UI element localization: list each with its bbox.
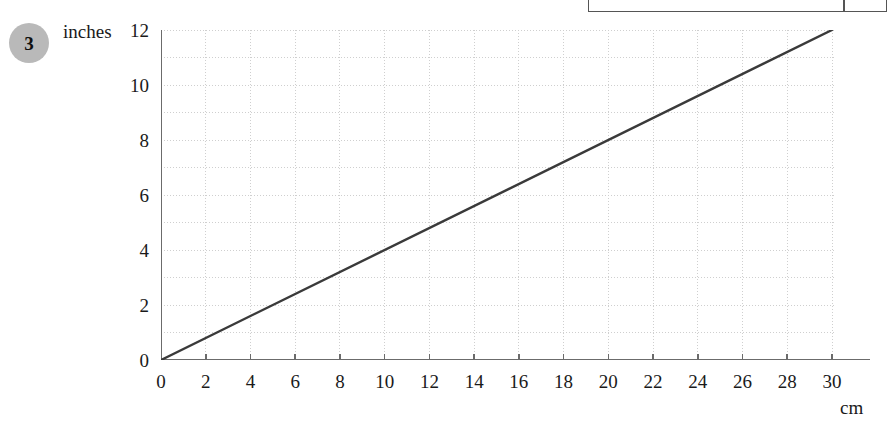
x-axis-tick-label: 28 <box>778 372 797 391</box>
x-axis-tick-label: 18 <box>554 372 573 391</box>
question-number-label: 3 <box>24 34 34 53</box>
x-axis-tick-label: 4 <box>246 372 256 391</box>
x-axis-title: cm <box>840 398 863 417</box>
y-axis-tick-label: 6 <box>140 186 150 205</box>
x-axis-tick-label: 22 <box>644 372 663 391</box>
y-axis-title: inches <box>63 22 112 41</box>
y-axis-tick-label: 4 <box>140 241 150 260</box>
question-number-badge: 3 <box>9 23 49 63</box>
x-axis-tick-label: 26 <box>733 372 752 391</box>
y-axis-tick-label: 2 <box>140 296 150 315</box>
x-axis-tick-label: 2 <box>201 372 211 391</box>
y-axis-tick-label: 8 <box>140 131 150 150</box>
chart-plot-area: 024681012024681012141618202224262830 <box>161 30 870 360</box>
clipped-table-fragment <box>588 0 887 12</box>
x-axis-tick-label: 8 <box>335 372 345 391</box>
x-axis-tick-label: 16 <box>509 372 528 391</box>
x-axis-tick-label: 6 <box>290 372 300 391</box>
y-axis-tick-label: 10 <box>130 76 149 95</box>
table-column-divider <box>843 0 845 11</box>
y-axis-tick-label: 0 <box>140 351 150 370</box>
chart-svg <box>161 30 870 360</box>
x-axis-tick-label: 30 <box>823 372 842 391</box>
y-axis-tick-label: 12 <box>130 21 149 40</box>
x-axis-tick-label: 14 <box>465 372 484 391</box>
x-axis-tick-label: 20 <box>599 372 618 391</box>
x-axis-tick-label: 12 <box>420 372 439 391</box>
x-axis-tick-label: 24 <box>688 372 707 391</box>
x-axis-tick-label: 0 <box>156 372 166 391</box>
x-axis-tick-label: 10 <box>375 372 394 391</box>
